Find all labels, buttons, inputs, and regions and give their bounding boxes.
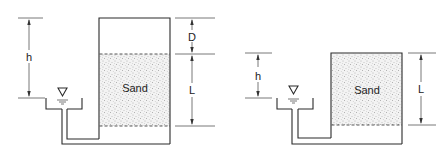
pipe-inner-wall [298, 109, 331, 138]
l-dimension-label: L [189, 84, 195, 96]
arrow-up-icon [419, 54, 422, 60]
arrow-down-icon [190, 119, 193, 125]
falling-head-diagram: Sand h D L [18, 18, 215, 144]
l-dimension-label: L [418, 83, 424, 95]
arrow-down-icon [190, 47, 193, 53]
constant-head-diagram: Sand h L [245, 53, 436, 144]
d-dimension-label: D [188, 31, 196, 43]
pipe-inner-wall [67, 109, 99, 139]
arrow-down-icon [256, 91, 259, 97]
permeameter-figure: Sand h D L Sand [0, 0, 442, 150]
reservoir-right [298, 98, 313, 109]
reservoir-right [67, 98, 82, 109]
water-level-icon [58, 88, 67, 96]
reservoir-left [277, 98, 292, 109]
h-dimension-label: h [26, 51, 32, 63]
arrow-up-icon [190, 19, 193, 25]
sand-label: Sand [122, 82, 148, 94]
arrow-down-icon [27, 91, 30, 97]
arrow-up-icon [27, 19, 30, 25]
arrow-up-icon [256, 54, 259, 60]
arrow-down-icon [419, 118, 422, 124]
h-dimension-label: h [255, 70, 261, 82]
arrow-up-icon [190, 55, 193, 61]
water-level-icon [289, 86, 298, 94]
sand-label: Sand [354, 84, 380, 96]
